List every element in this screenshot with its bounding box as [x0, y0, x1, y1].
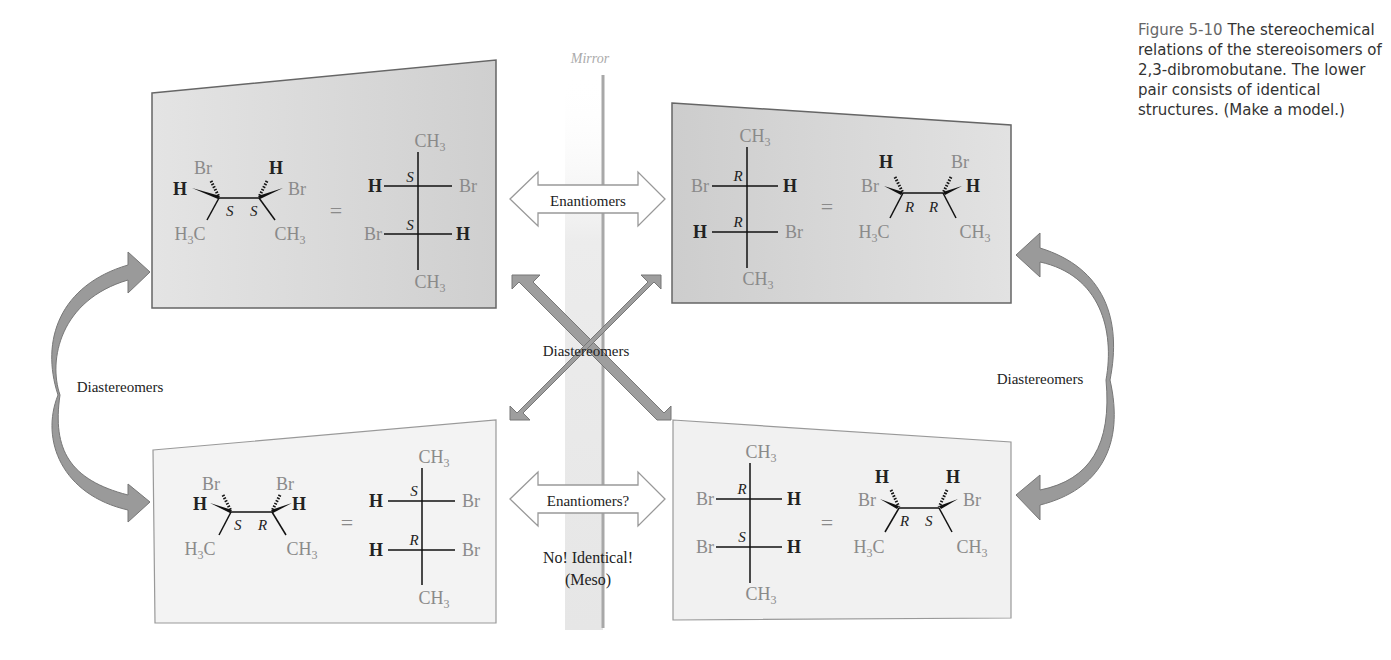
diastereomers-right-label: Diastereomers — [997, 371, 1084, 387]
svg-text:S: S — [738, 529, 746, 545]
diastereomers-cross-label: Diastereomers — [543, 343, 630, 359]
svg-text:Br: Br — [951, 152, 969, 172]
panel-bottom-left — [153, 420, 496, 623]
meso-note: (Meso) — [565, 571, 611, 589]
diastereomers-arrow-right: Diastereomers — [997, 233, 1115, 520]
svg-text:Br: Br — [858, 490, 876, 510]
svg-text:H: H — [875, 467, 889, 487]
svg-text:S: S — [250, 203, 258, 219]
svg-text:Br: Br — [691, 176, 709, 196]
diastereomers-left-label: Diastereomers — [77, 379, 164, 395]
svg-text:R: R — [408, 532, 418, 548]
svg-text:H: H — [369, 540, 383, 560]
svg-text:Br: Br — [462, 540, 480, 560]
svg-text:H: H — [787, 489, 801, 509]
svg-text:R: R — [732, 214, 742, 230]
svg-text:Br: Br — [276, 474, 294, 494]
svg-text:R: R — [904, 199, 914, 215]
svg-text:S: S — [406, 169, 414, 185]
panel-top-left — [152, 60, 496, 308]
svg-text:S: S — [406, 217, 414, 233]
svg-text:H: H — [787, 537, 801, 557]
panel-bottom-right — [673, 420, 1011, 620]
svg-text:Br: Br — [202, 474, 220, 494]
svg-text:R: R — [928, 199, 938, 215]
panel-top-right — [672, 103, 1011, 303]
svg-text:Br: Br — [785, 222, 803, 242]
svg-text:H: H — [946, 467, 960, 487]
equals-sign: = — [821, 194, 833, 219]
identical-note: No! Identical! — [543, 549, 633, 566]
svg-text:S: S — [234, 517, 242, 533]
svg-text:H: H — [966, 176, 980, 196]
svg-text:H: H — [693, 222, 707, 242]
svg-text:Br: Br — [459, 176, 477, 196]
enantiomers-question-label: Enantiomers? — [547, 493, 630, 509]
svg-text:H: H — [369, 491, 383, 511]
svg-text:R: R — [732, 168, 742, 184]
svg-text:Br: Br — [364, 224, 382, 244]
svg-text:S: S — [226, 203, 234, 219]
svg-text:H: H — [368, 176, 382, 196]
svg-text:R: R — [899, 513, 909, 529]
svg-text:R: R — [736, 481, 746, 497]
svg-text:H: H — [269, 158, 283, 178]
svg-text:Br: Br — [194, 158, 212, 178]
svg-text:Br: Br — [462, 491, 480, 511]
equals-sign: = — [821, 510, 833, 535]
svg-text:H: H — [292, 494, 306, 514]
svg-text:Br: Br — [861, 176, 879, 196]
svg-text:H: H — [456, 224, 470, 244]
svg-text:S: S — [925, 513, 933, 529]
svg-text:S: S — [410, 483, 418, 499]
svg-text:H: H — [193, 494, 207, 514]
svg-text:Br: Br — [696, 489, 714, 509]
mirror-label: Mirror — [570, 51, 610, 66]
svg-text:R: R — [257, 517, 267, 533]
svg-text:H: H — [173, 179, 187, 199]
svg-text:Br: Br — [288, 179, 306, 199]
equals-sign: = — [341, 510, 353, 535]
svg-text:H: H — [783, 176, 797, 196]
svg-text:H: H — [879, 152, 893, 172]
stereoisomer-diagram: Mirror Enantiomers Enantiomers? No! Iden… — [0, 0, 1391, 660]
equals-sign: = — [330, 198, 342, 223]
svg-text:Br: Br — [963, 490, 981, 510]
enantiomers-label: Enantiomers — [550, 193, 626, 209]
svg-text:Br: Br — [696, 537, 714, 557]
diastereomers-arrow-left: Diastereomers — [52, 252, 164, 522]
